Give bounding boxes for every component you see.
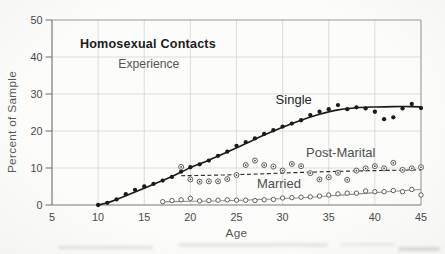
data-point-filled-dot — [188, 165, 192, 169]
data-point-open-circle — [327, 193, 331, 197]
data-point-open-circle — [161, 199, 165, 203]
data-point-filled-dot — [96, 203, 100, 207]
y-tick-label: 0 — [36, 199, 42, 211]
data-point-filled-dot — [114, 197, 118, 201]
data-point-inner-dot — [226, 178, 228, 180]
data-point-open-circle — [373, 189, 377, 193]
data-point-inner-dot — [254, 160, 256, 162]
data-point-filled-dot — [225, 150, 229, 154]
scan-artifact — [58, 246, 153, 249]
data-point-inner-dot — [411, 168, 413, 170]
data-point-inner-dot — [319, 179, 321, 181]
x-tick-label: 45 — [415, 211, 427, 223]
chart-canvas: 0102030405051015202530354045AgePercent o… — [0, 0, 445, 254]
data-point-filled-dot — [234, 144, 238, 148]
data-point-inner-dot — [337, 172, 339, 174]
data-point-inner-dot — [199, 181, 201, 183]
data-point-open-circle — [244, 198, 248, 202]
data-point-open-circle — [170, 198, 174, 202]
data-point-open-circle — [419, 193, 423, 197]
data-point-open-circle — [299, 195, 303, 199]
data-point-inner-dot — [392, 162, 394, 164]
data-point-open-circle — [188, 196, 192, 200]
data-point-inner-dot — [282, 170, 284, 172]
data-point-open-circle — [345, 191, 349, 195]
x-tick-label: 25 — [230, 211, 242, 223]
data-point-open-circle — [179, 198, 183, 202]
data-point-filled-dot — [382, 117, 386, 121]
x-axis-title: Age — [226, 226, 248, 240]
y-tick-label: 10 — [30, 162, 42, 174]
data-point-open-circle — [216, 198, 220, 202]
data-point-inner-dot — [309, 172, 311, 174]
data-point-filled-dot — [345, 107, 349, 111]
data-point-open-circle — [363, 189, 367, 193]
data-point-open-circle — [354, 191, 358, 195]
y-tick-label: 30 — [30, 88, 42, 100]
data-point-inner-dot — [273, 166, 275, 168]
data-point-filled-dot — [253, 136, 257, 140]
x-tick-label: 30 — [277, 211, 289, 223]
data-point-open-circle — [207, 198, 211, 202]
data-point-inner-dot — [300, 165, 302, 167]
data-point-filled-dot — [133, 188, 137, 192]
scanned-figure-page: 0102030405051015202530354045AgePercent o… — [0, 0, 445, 254]
data-point-open-circle — [280, 196, 284, 200]
data-point-filled-dot — [151, 182, 155, 186]
data-point-open-circle — [271, 197, 275, 201]
data-point-open-circle — [308, 195, 312, 199]
data-point-inner-dot — [217, 180, 219, 182]
data-point-filled-dot — [317, 110, 321, 114]
data-point-filled-dot — [280, 124, 284, 128]
data-point-open-circle — [234, 198, 238, 202]
data-point-inner-dot — [245, 164, 247, 166]
y-tick-label: 20 — [30, 125, 42, 137]
data-point-open-circle — [317, 194, 321, 198]
y-tick-label: 40 — [30, 51, 42, 63]
data-point-filled-dot — [373, 110, 377, 114]
data-point-open-circle — [253, 198, 257, 202]
x-tick-label: 20 — [184, 211, 196, 223]
x-tick-label: 40 — [369, 211, 381, 223]
x-tick-label: 5 — [49, 211, 55, 223]
data-point-filled-dot — [419, 106, 423, 110]
data-point-inner-dot — [346, 179, 348, 181]
data-point-filled-dot — [410, 102, 414, 106]
data-point-filled-dot — [290, 121, 294, 125]
scan-artifact — [340, 243, 395, 246]
data-point-inner-dot — [420, 166, 422, 168]
data-point-open-circle — [336, 192, 340, 196]
data-point-filled-dot — [271, 128, 275, 132]
data-point-filled-dot — [142, 184, 146, 188]
scan-artifact — [398, 247, 440, 251]
data-point-inner-dot — [263, 164, 265, 166]
data-point-open-circle — [262, 198, 266, 202]
chart-subtitle: Experience — [118, 57, 179, 71]
data-point-inner-dot — [365, 168, 367, 170]
data-point-filled-dot — [262, 132, 266, 136]
data-point-filled-dot — [364, 106, 368, 110]
chart-title: Homosexual Contacts — [80, 37, 216, 51]
data-point-inner-dot — [328, 176, 330, 178]
series-label-married: Married — [257, 176, 301, 191]
data-point-inner-dot — [383, 168, 385, 170]
data-point-inner-dot — [356, 170, 358, 172]
data-point-filled-dot — [179, 170, 183, 174]
series-points-post-marital — [179, 158, 424, 184]
data-point-filled-dot — [207, 158, 211, 162]
y-tick-label: 50 — [30, 14, 42, 26]
data-point-filled-dot — [105, 201, 109, 205]
data-point-inner-dot — [190, 179, 192, 181]
data-point-filled-dot — [354, 105, 358, 109]
data-point-open-circle — [391, 188, 395, 192]
data-point-open-circle — [197, 199, 201, 203]
data-point-filled-dot — [124, 192, 128, 196]
data-point-filled-dot — [400, 106, 404, 110]
data-point-filled-dot — [336, 103, 340, 107]
data-point-inner-dot — [402, 169, 404, 171]
data-point-filled-dot — [197, 162, 201, 166]
data-point-open-circle — [410, 187, 414, 191]
scan-artifact — [178, 243, 328, 247]
data-point-filled-dot — [308, 113, 312, 117]
y-axis-title: Percent of Sample — [5, 71, 19, 173]
